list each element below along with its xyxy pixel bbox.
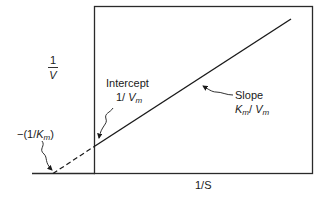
intercept-value: 1/ Vm [116, 91, 142, 107]
extrapolation-dashed-line [53, 146, 95, 174]
x-intercept-var: K [36, 128, 43, 140]
intercept-arrow-icon [99, 108, 113, 138]
slope-den-sub: m [262, 108, 269, 117]
x-intercept-suffix: ) [50, 128, 54, 140]
intercept-value-var: V [128, 91, 135, 103]
intercept-value-prefix: 1/ [116, 91, 128, 103]
x-intercept-prefix: −(1/ [17, 128, 36, 140]
x-intercept-arrow-icon [42, 141, 52, 170]
intercept-title: Intercept [106, 77, 149, 89]
slope-arrow-icon [203, 86, 233, 95]
x-intercept-label: −(1/Km) [17, 128, 54, 144]
intercept-value-sub: m [136, 96, 143, 105]
slope-title: Slope [235, 89, 263, 101]
y-axis-label: 1 V [46, 54, 60, 81]
slope-value: Km/ Vm [235, 103, 269, 119]
plot-frame [95, 7, 313, 174]
x-axis-label: 1/S [195, 179, 212, 191]
plot-canvas [0, 0, 322, 198]
fraction-bar [48, 67, 58, 68]
y-axis-label-denominator: V [46, 69, 60, 81]
slope-num-sub: m [242, 108, 249, 117]
y-axis-label-numerator: 1 [46, 54, 60, 66]
